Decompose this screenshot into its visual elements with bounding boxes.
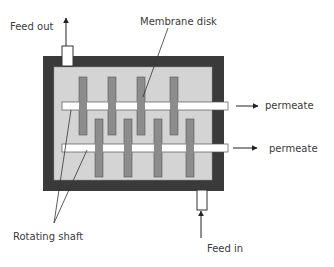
feed-out-label: Feed out [10,21,53,32]
membrane-disk [79,101,87,111]
feed-in-tube [197,190,207,210]
membrane-disk [154,143,162,153]
membrane-module-diagram: Feed out Membrane disk permeate permeate… [0,0,334,267]
feed-out-tube [62,46,73,66]
membrane-disk [95,143,103,153]
membrane-disk [124,143,132,153]
permeate-label-top: permeate [265,100,314,111]
permeate-label-bottom: permeate [269,143,318,154]
membrane-disk-label: Membrane disk [140,16,217,27]
membrane-disk [137,101,145,111]
membrane-disk [186,143,194,153]
membrane-disk [170,101,178,111]
rotating-shaft-label: Rotating shaft [13,231,83,242]
feed-in-label: Feed in [207,243,243,254]
membrane-disk [108,101,116,111]
